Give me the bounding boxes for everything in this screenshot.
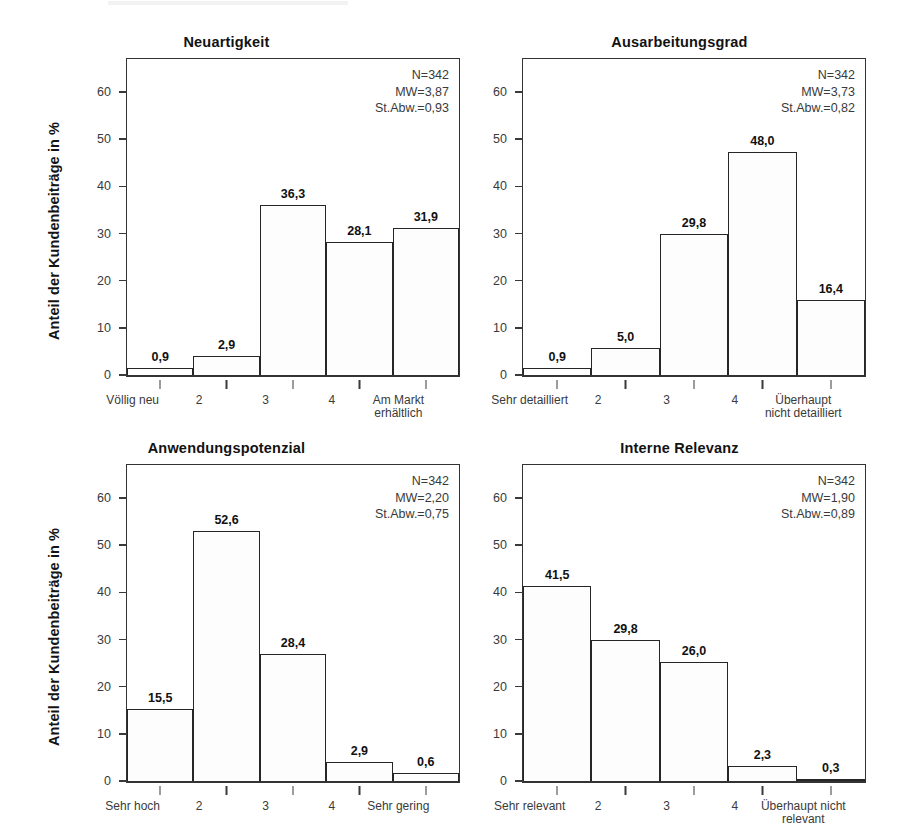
stat-n: N=342: [781, 67, 855, 84]
y-tick-mark: [515, 686, 523, 687]
y-tick-mark: [515, 780, 523, 781]
y-axis-tick: 60: [85, 85, 127, 99]
x-tick-mark: [359, 786, 360, 795]
bar-value-label: 29,8: [613, 622, 637, 636]
y-tick-mark: [515, 544, 523, 545]
bar: [260, 205, 326, 375]
y-tick-label: 10: [481, 727, 515, 741]
x-axis-tick: Sehr gering: [398, 781, 453, 813]
bar-value-label: 29,8: [682, 216, 706, 230]
chart-title: Anwendungspotenzial: [0, 440, 453, 456]
y-tick-mark: [119, 138, 127, 139]
y-tick-mark: [515, 280, 523, 281]
y-tick-mark: [119, 733, 127, 734]
plot-area: N=342 MW=3,73 St.Abw.=0,82 0102030405060…: [522, 58, 866, 375]
x-tick-mark: [292, 786, 293, 795]
y-axis-tick: 0: [481, 774, 523, 788]
y-tick-label: 10: [481, 321, 515, 335]
x-tick-mark: [830, 786, 831, 795]
y-tick-label: 60: [481, 491, 515, 505]
x-tick-mark: [556, 786, 557, 795]
y-tick-mark: [515, 639, 523, 640]
y-axis-tick: 10: [481, 727, 523, 741]
y-axis-tick: 40: [481, 179, 523, 193]
bar-value-label: 2,9: [351, 744, 368, 758]
bar: [193, 356, 259, 375]
y-axis-tick: 10: [85, 727, 127, 741]
bar-value-label: 28,4: [281, 636, 305, 650]
stats-annotation: N=342 MW=1,90 St.Abw.=0,89: [781, 473, 855, 523]
bar: [326, 762, 392, 781]
y-axis-tick: 0: [85, 368, 127, 382]
bar: [193, 531, 259, 781]
bar-value-label: 31,9: [414, 210, 438, 224]
y-tick-mark: [119, 280, 127, 281]
stat-n: N=342: [375, 473, 449, 490]
y-tick-mark: [515, 233, 523, 234]
x-tick-mark: [762, 786, 763, 795]
bar: [127, 709, 193, 781]
stat-sd: St.Abw.=0,82: [781, 100, 855, 117]
y-tick-label: 0: [481, 774, 515, 788]
y-tick-label: 20: [481, 274, 515, 288]
stat-mean: MW=1,90: [781, 490, 855, 507]
y-tick-label: 20: [481, 680, 515, 694]
bar-value-label: 26,0: [682, 644, 706, 658]
y-axis-tick: 60: [85, 491, 127, 505]
y-axis-tick: 50: [481, 132, 523, 146]
y-axis-tick: 20: [481, 680, 523, 694]
bar: [660, 662, 728, 781]
stat-n: N=342: [375, 67, 449, 84]
stat-sd: St.Abw.=0,75: [375, 506, 449, 523]
chart-title: Ausarbeitungsgrad: [453, 34, 906, 50]
x-axis-tick: Am Markt erhältlich: [398, 375, 453, 420]
y-tick-mark: [515, 327, 523, 328]
bar: [393, 228, 459, 375]
y-tick-label: 20: [85, 274, 119, 288]
x-axis-tick: Überhaupt nicht detailliert: [803, 375, 858, 420]
chart-panel-neuartigkeit: Neuartigkeit Anteil der Kundenbeiträge i…: [0, 0, 453, 415]
bar-value-label: 41,5: [545, 568, 569, 582]
y-tick-mark: [119, 327, 127, 328]
y-tick-mark: [119, 374, 127, 375]
y-axis-tick: 50: [85, 538, 127, 552]
stat-sd: St.Abw.=0,93: [375, 100, 449, 117]
y-axis-tick: 50: [481, 538, 523, 552]
bar-value-label: 2,3: [754, 748, 771, 762]
stat-sd: St.Abw.=0,89: [781, 506, 855, 523]
x-tick-mark: [830, 380, 831, 389]
x-tick-mark: [292, 380, 293, 389]
y-axis-tick: 10: [481, 321, 523, 335]
y-tick-label: 40: [481, 585, 515, 599]
y-axis-tick: 40: [481, 585, 523, 599]
y-tick-mark: [515, 733, 523, 734]
y-tick-label: 30: [481, 227, 515, 241]
y-tick-mark: [515, 186, 523, 187]
y-tick-mark: [515, 91, 523, 92]
bar: [127, 368, 193, 375]
y-axis-tick: 10: [85, 321, 127, 335]
x-tick-mark: [693, 380, 694, 389]
bar-value-label: 28,1: [347, 224, 371, 238]
bar: [591, 348, 659, 375]
histogram-figure: Neuartigkeit Anteil der Kundenbeiträge i…: [0, 0, 907, 831]
x-tick-mark: [556, 380, 557, 389]
plot-area: N=342 MW=3,87 St.Abw.=0,93 0102030405060…: [126, 58, 460, 375]
x-tick-mark: [159, 786, 160, 795]
bar-value-label: 16,4: [819, 282, 843, 296]
bar: [393, 773, 459, 781]
y-axis-tick: 20: [85, 274, 127, 288]
y-axis-tick: 0: [481, 368, 523, 382]
x-tick-mark: [226, 380, 227, 389]
stat-n: N=342: [781, 473, 855, 490]
y-tick-label: 0: [85, 368, 119, 382]
y-axis-tick: 0: [85, 774, 127, 788]
bar-value-label: 36,3: [281, 187, 305, 201]
y-axis-tick: 30: [481, 227, 523, 241]
stats-annotation: N=342 MW=3,73 St.Abw.=0,82: [781, 67, 855, 117]
bar: [660, 234, 728, 375]
y-tick-label: 10: [85, 727, 119, 741]
y-tick-label: 30: [85, 227, 119, 241]
y-tick-mark: [515, 497, 523, 498]
y-tick-mark: [119, 233, 127, 234]
